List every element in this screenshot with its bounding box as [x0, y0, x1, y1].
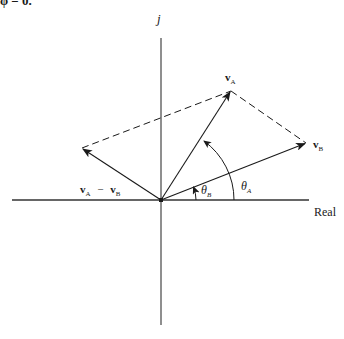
- theta-b-arc: [194, 187, 197, 200]
- dashed-edge-right: [231, 91, 306, 143]
- va-minus-vb-label: vA − vB: [80, 184, 120, 198]
- vb-label: vB: [313, 139, 323, 153]
- va-label: vA: [225, 72, 236, 86]
- origin-point: [159, 198, 163, 202]
- theta-b-label: θB: [201, 184, 211, 199]
- theta-a-label: θA: [241, 180, 251, 195]
- dashed-edge-left: [82, 91, 231, 148]
- vector-diagram: [0, 0, 344, 339]
- real-axis-label: Real: [314, 206, 336, 218]
- vector-vb: [161, 144, 305, 201]
- vector-va: [161, 92, 230, 200]
- imaginary-axis-label: j: [157, 12, 161, 25]
